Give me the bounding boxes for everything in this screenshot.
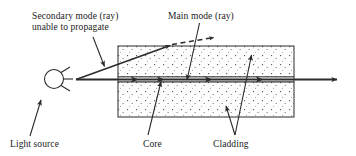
fiber-optic-diagram: Secondary mode (ray) unable to propagate… (0, 0, 356, 156)
secondary-mode-leader (93, 37, 105, 67)
light-source-leader (30, 100, 41, 136)
label-cladding: Cladding (213, 139, 249, 150)
main-mode-ray (76, 77, 337, 83)
fiber-cladding-upper (118, 46, 294, 77)
label-light-source: Light source (10, 139, 59, 150)
fiber-cladding-lower (118, 82, 294, 117)
light-source-icon (45, 67, 74, 91)
label-core: Core (143, 139, 162, 150)
label-secondary-mode: Secondary mode (ray) unable to propagate (32, 11, 118, 33)
label-main-mode: Main mode (ray) (168, 11, 234, 22)
